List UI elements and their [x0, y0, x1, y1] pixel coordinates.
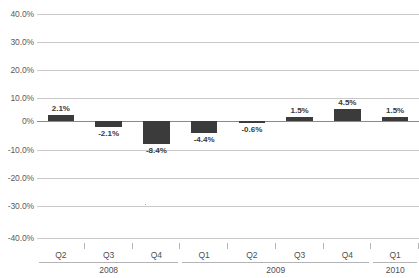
year-rule-2010 [373, 262, 417, 263]
x-tick [84, 243, 85, 249]
bar-q1-2009[interactable] [191, 121, 218, 133]
y-tick-label: -40.0% [0, 234, 34, 243]
bar-q2-2009[interactable] [239, 121, 266, 123]
y-tick-label: 10.0% [0, 94, 34, 103]
y-tick-label: 30.0% [0, 38, 34, 47]
year-label-2009: 2009 [180, 265, 371, 275]
y-tick-label: 20.0% [0, 66, 34, 75]
x-tick [227, 243, 228, 249]
x-tick [179, 243, 180, 249]
x-tick-label-q4-2009: Q4 [324, 250, 372, 260]
year-rule-2009 [182, 262, 369, 263]
year-label-2010: 2010 [371, 265, 419, 275]
bar-value-label: -8.4% [133, 146, 181, 155]
x-tick-label-q1-2009: Q1 [180, 250, 228, 260]
bar-q1-2010[interactable] [382, 117, 409, 121]
y-tick-label: -30.0% [0, 202, 34, 211]
y-tick-label: 0% [0, 117, 34, 126]
bar-q3-2009[interactable] [286, 117, 313, 121]
x-tick [275, 243, 276, 249]
year-group-axis: 2008 2009 2010 [37, 262, 419, 278]
x-tick [132, 243, 133, 249]
bar-value-label: 1.5% [371, 106, 419, 115]
year-rule-2008 [39, 262, 178, 263]
year-label-2008: 2008 [37, 265, 180, 275]
plot-area: 2.1% -2.1% -8.4% -4.4% -0.6% 1.5% 4.5% 1… [37, 0, 419, 243]
x-tick-label-q3-2009: Q3 [276, 250, 324, 260]
x-tick-label-q4-2008: Q4 [133, 250, 181, 260]
x-tick-label-q2-2009: Q2 [228, 250, 276, 260]
bar-value-label: -0.6% [228, 125, 276, 134]
y-tick-label: -20.0% [0, 174, 34, 183]
bars-layer: 2.1% -2.1% -8.4% -4.4% -0.6% 1.5% 4.5% 1… [37, 0, 419, 243]
bar-value-label: 2.1% [37, 104, 85, 113]
bar-q3-2008[interactable] [95, 121, 122, 127]
bar-q4-2008[interactable] [143, 121, 170, 144]
y-tick-label: 40.0% [0, 10, 34, 19]
bar-q4-2009[interactable] [334, 109, 361, 121]
x-tick [370, 243, 371, 249]
x-tick [323, 243, 324, 249]
bar-chart: 40.0% 30.0% 20.0% 10.0% 0% -10.0% -20.0%… [0, 0, 419, 278]
bar-value-label: -4.4% [180, 135, 228, 144]
bar-value-label: -2.1% [85, 129, 133, 138]
bar-value-label: 1.5% [276, 106, 324, 115]
x-tick-label-q3-2008: Q3 [85, 250, 133, 260]
bar-q2-2008[interactable] [48, 115, 75, 121]
y-axis: 40.0% 30.0% 20.0% 10.0% 0% -10.0% -20.0%… [0, 0, 34, 243]
x-tick-label-q2-2008: Q2 [37, 250, 85, 260]
y-tick-label: -10.0% [0, 146, 34, 155]
x-tick-label-q1-2010: Q1 [371, 250, 419, 260]
bar-value-label: 4.5% [324, 98, 372, 107]
